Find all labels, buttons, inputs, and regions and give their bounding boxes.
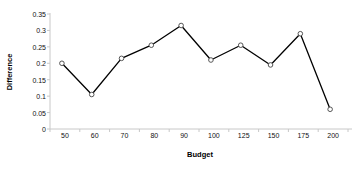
data-point-marker — [89, 92, 94, 97]
series-line — [62, 26, 330, 110]
data-point-marker — [149, 43, 154, 48]
data-point-marker — [298, 31, 303, 36]
x-axis-title: Budget — [50, 150, 350, 159]
data-point-marker — [209, 58, 214, 63]
data-point-marker — [268, 63, 273, 68]
line-chart: Difference 00.050.10.150.20.250.30.35 50… — [0, 0, 362, 170]
data-point-marker — [328, 107, 333, 112]
data-point-marker — [179, 23, 184, 28]
axes — [47, 13, 352, 132]
data-point-marker — [238, 43, 243, 48]
plot-area — [0, 0, 362, 170]
data-point-marker — [60, 61, 65, 66]
data-series — [60, 23, 333, 111]
data-point-marker — [119, 56, 124, 61]
